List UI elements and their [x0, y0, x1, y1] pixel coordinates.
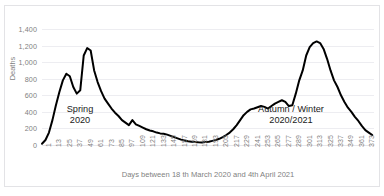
x-tick-label-337: 337 — [337, 135, 344, 147]
annotation-winter-line2: 2020/2021 — [243, 115, 339, 126]
y-tick-label-1000: 1,000 — [19, 58, 38, 67]
y-tick-label-600: 600 — [25, 91, 37, 100]
plot-area — [42, 29, 374, 145]
y-axis-tick-labels: 02004006008001,0001,2001,400 — [0, 29, 40, 145]
x-tick-label-301: 301 — [306, 135, 313, 147]
x-tick-label-1: 1 — [45, 143, 52, 147]
x-tick-label-73: 73 — [108, 139, 115, 147]
annotation-autumn-winter-wave: Autumn / Winter 2020/2021 — [243, 104, 339, 126]
x-tick-label-373: 373 — [368, 135, 375, 147]
x-axis-title: Days between 18 th March 2020 and 4th Ap… — [42, 170, 374, 179]
x-axis-tick-labels: 1132537496173859710912113314515716918119… — [42, 147, 374, 169]
x-tick-label-229: 229 — [243, 135, 250, 147]
y-tick-label-200: 200 — [25, 124, 37, 133]
x-tick-label-109: 109 — [139, 135, 146, 147]
x-tick-label-205: 205 — [222, 135, 229, 147]
x-tick-label-325: 325 — [327, 135, 334, 147]
y-tick-label-1400: 1,400 — [19, 25, 38, 34]
x-tick-label-133: 133 — [160, 135, 167, 147]
x-tick-label-241: 241 — [254, 135, 261, 147]
x-tick-label-145: 145 — [170, 135, 177, 147]
deaths-line-path — [42, 41, 372, 143]
annotation-spring-line1: Spring — [50, 104, 110, 115]
y-tick-label-1200: 1,200 — [19, 41, 38, 50]
x-tick-label-169: 169 — [191, 135, 198, 147]
x-tick-label-313: 313 — [316, 135, 323, 147]
x-tick-label-349: 349 — [347, 135, 354, 147]
y-tick-label-800: 800 — [25, 74, 37, 83]
x-tick-label-253: 253 — [264, 135, 271, 147]
annotation-spring-line2: 2020 — [50, 115, 110, 126]
x-tick-label-157: 157 — [181, 135, 188, 147]
x-tick-label-265: 265 — [274, 135, 281, 147]
x-tick-label-361: 361 — [358, 135, 365, 147]
x-tick-label-289: 289 — [295, 135, 302, 147]
deaths-line-series — [42, 29, 374, 145]
x-tick-label-49: 49 — [87, 139, 94, 147]
x-tick-label-277: 277 — [285, 135, 292, 147]
y-tick-label-400: 400 — [25, 107, 37, 116]
x-tick-label-193: 193 — [212, 135, 219, 147]
y-tick-label-0: 0 — [33, 141, 37, 150]
x-tick-label-61: 61 — [97, 139, 104, 147]
x-tick-label-85: 85 — [118, 139, 125, 147]
x-tick-label-181: 181 — [201, 135, 208, 147]
x-tick-label-121: 121 — [149, 135, 156, 147]
x-tick-label-13: 13 — [55, 139, 62, 147]
x-tick-label-37: 37 — [76, 139, 83, 147]
x-tick-label-217: 217 — [233, 135, 240, 147]
deaths-time-series-chart: Deaths 02004006008001,0001,2001,400 1132… — [0, 0, 384, 196]
annotation-winter-line1: Autumn / Winter — [243, 104, 339, 115]
x-tick-label-97: 97 — [128, 139, 135, 147]
annotation-spring-wave: Spring 2020 — [50, 104, 110, 126]
x-tick-label-25: 25 — [66, 139, 73, 147]
